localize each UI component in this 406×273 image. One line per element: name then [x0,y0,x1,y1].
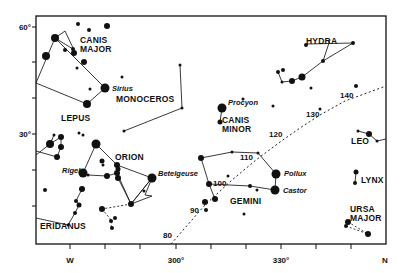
star-icon [79,186,85,192]
constellation-label: GEMINI [230,196,261,206]
star-icon [123,130,126,133]
star-icon [76,67,79,70]
constellation-label: MONOCEROS [116,94,175,104]
star-chart: 8090100110120130140 CANISMAJORHYDRAMONOC… [0,0,406,273]
star-icon [212,196,218,202]
ecliptic-longitude-mark: 110 [240,153,253,162]
star-icon [376,140,379,143]
star-icon [257,152,260,155]
star-icon [365,231,371,237]
star-icon [71,50,77,56]
star-icon [110,226,114,230]
star-icon [42,52,50,60]
star-icon [104,173,110,179]
star-icon [53,134,56,137]
constellation-label: LYNX [361,175,384,185]
star-icon [102,164,105,167]
bright-star-icon [271,186,280,195]
star-icon [77,203,82,208]
star-icon [256,189,259,192]
y-axis-label: 30° [19,130,31,139]
star-icon [281,81,284,84]
star-icon [321,59,325,63]
constellation-label: ORION [115,152,144,162]
star-icon [281,68,285,72]
star-icon [181,107,184,110]
star-icon [89,88,92,91]
star-icon [81,59,87,65]
star-icon [54,154,60,160]
star-icon [357,130,360,133]
star-name-label: Castor [283,186,308,195]
star-icon [248,184,252,188]
star-icon [58,144,64,150]
constellation-line [117,173,152,204]
star-icon [121,76,124,79]
star-icon [76,22,80,26]
star-icon [87,28,91,32]
star-icon [74,199,78,203]
star-icon [289,78,295,84]
star-name-label: Rigel [62,166,81,175]
star-icon [202,199,208,205]
ecliptic-longitude-mark: 130 [306,110,320,119]
star-icon [299,74,306,81]
constellation-label: CANISMAJOR [80,35,112,54]
x-axis-label: N [382,256,388,265]
x-axis-label: 300° [168,256,185,265]
star-icon [83,100,91,108]
constellation-label: LEPUS [61,113,90,123]
star-icon [272,105,275,108]
star-icon [351,41,355,45]
bright-star-icon [218,104,227,113]
constellation-dashed-line [346,226,368,234]
star-icon [78,132,81,135]
constellation-label: URSAMAJOR [350,204,382,223]
y-axis-label: 60° [19,23,31,32]
constellation-labels: CANISMAJORHYDRAMONOCEROSCANISMINORLEPUSO… [40,35,384,231]
x-axis-label: W [66,256,74,265]
star-icon [51,34,59,42]
star-icon [128,201,134,207]
star-icon [310,87,313,90]
star-icon [276,70,280,74]
star-icon [114,170,120,176]
star-icon [231,151,234,154]
constellation-line [36,189,82,225]
x-axis-label: 330° [273,256,290,265]
ecliptic-longitude-mark: 120 [269,130,283,139]
star-icon [206,181,212,187]
star-icon [243,213,246,216]
constellation-label: CANISMINOR [222,115,251,134]
star-name-label: Pollux [284,169,307,178]
bright-star-icon [272,170,281,179]
star-icon [198,155,204,161]
star-name-label: Procyon [228,98,258,107]
bright-star-icon [101,84,110,93]
star-icon [99,206,105,212]
star-icon [354,84,358,88]
bright-star-icon [148,174,157,183]
constellation-line [278,43,353,82]
constellation-label: HYDRA [306,36,337,46]
constellation-dashed-line [102,204,131,209]
star-name-label: Sirius [112,84,133,93]
star-icon [344,224,348,228]
star-name-label: Betelgeuse [158,169,198,178]
star-icon [113,216,117,220]
star-icon [115,175,121,181]
star-icon [227,175,230,178]
star-icon [58,134,64,140]
ecliptic-longitude-mark: 100 [213,179,227,188]
constellation-lines [36,31,386,234]
constellation-label: ERIDANUS [40,221,86,231]
star-icon [319,108,322,111]
ecliptic-longitude-mark: 140 [340,91,354,100]
star-icon [82,134,85,137]
constellation-label: LEO [351,136,369,146]
star-icon [63,48,67,52]
star-icon [109,219,113,223]
ecliptic-longitude-mark: 80 [163,231,172,240]
star-icon [179,64,182,67]
star-icon [354,170,359,175]
